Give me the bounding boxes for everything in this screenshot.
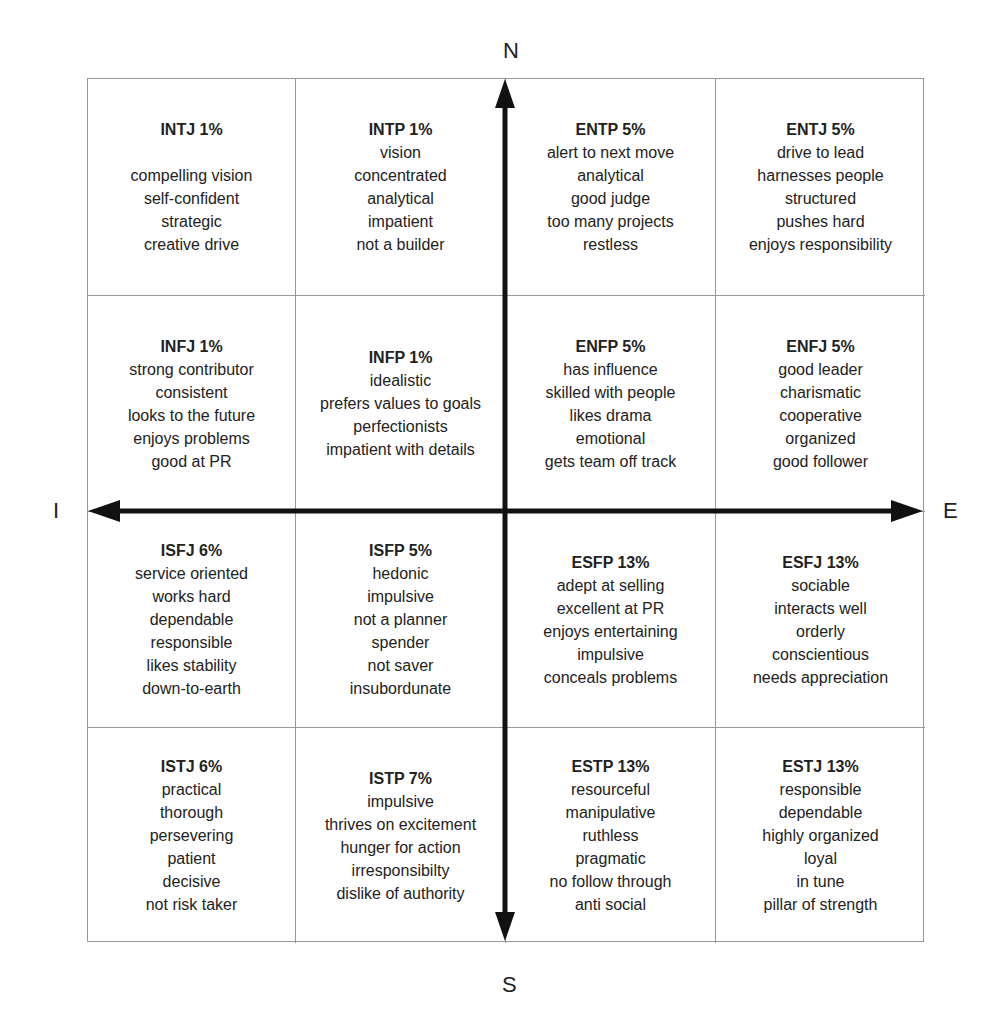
trait-item: harnesses people <box>757 164 883 187</box>
trait-item: impulsive <box>367 585 434 608</box>
trait-item: loyal <box>804 847 837 870</box>
trait-item: vision <box>380 141 421 164</box>
type-cell-isfp: ISFP 5%hedonicimpulsivenot a plannerspen… <box>296 512 506 728</box>
trait-item: conscientious <box>772 643 869 666</box>
axis-label-i: I <box>53 500 59 522</box>
type-title: ISTJ 6% <box>161 755 222 778</box>
trait-item: works hard <box>152 585 230 608</box>
trait-item: thorough <box>160 801 223 824</box>
type-cell-intp: INTP 1%visionconcentratedanalyticalimpat… <box>296 79 506 296</box>
trait-item: creative drive <box>144 233 239 256</box>
trait-item: strong contributor <box>129 358 254 381</box>
type-cell-infp: INFP 1%idealisticprefers values to goals… <box>296 296 506 512</box>
trait-item: dependable <box>779 801 863 824</box>
trait-item: emotional <box>576 427 645 450</box>
trait-item: hunger for action <box>340 836 460 859</box>
type-title: INTJ 1% <box>160 118 222 141</box>
trait-item: spender <box>372 631 430 654</box>
trait-item: down-to-earth <box>142 677 241 700</box>
trait-item: no follow through <box>550 870 672 893</box>
type-cell-entp: ENTP 5%alert to next moveanalyticalgood … <box>506 79 716 296</box>
type-title: ESFJ 13% <box>782 551 858 574</box>
trait-item: practical <box>162 778 222 801</box>
trait-item: good at PR <box>151 450 231 473</box>
trait-item: insubordunate <box>350 677 451 700</box>
trait-item: patient <box>167 847 215 870</box>
type-grid: INTJ 1%compelling visionself-confidentst… <box>87 78 924 942</box>
trait-item: irresponsibilty <box>352 859 450 882</box>
trait-item: resourceful <box>571 778 650 801</box>
trait-item: responsible <box>151 631 233 654</box>
trait-item: needs appreciation <box>753 666 888 689</box>
trait-item: analytical <box>577 164 644 187</box>
type-title: ESTP 13% <box>572 755 650 778</box>
type-cell-estp: ESTP 13%resourcefulmanipulativeruthlessp… <box>506 728 716 943</box>
type-title: ESTJ 13% <box>782 755 858 778</box>
trait-item: dependable <box>150 608 234 631</box>
trait-item: impulsive <box>367 790 434 813</box>
trait-item: thrives on excitement <box>325 813 476 836</box>
axis-label-n: N <box>503 40 519 62</box>
trait-item: prefers values to goals <box>320 392 481 415</box>
trait-item: orderly <box>796 620 845 643</box>
type-title: ENFJ 5% <box>786 335 854 358</box>
trait-item: enjoys entertaining <box>543 620 677 643</box>
trait-item: charismatic <box>780 381 861 404</box>
type-cell-entj: ENTJ 5%drive to leadharnesses peoplestru… <box>716 79 925 296</box>
trait-item: impulsive <box>577 643 644 666</box>
trait-item: interacts well <box>774 597 866 620</box>
trait-item: consistent <box>155 381 227 404</box>
type-title: INFP 1% <box>369 346 433 369</box>
trait-item: idealistic <box>370 369 431 392</box>
type-cell-enfp: ENFP 5%has influenceskilled with peoplel… <box>506 296 716 512</box>
trait-item: likes drama <box>570 404 652 427</box>
type-title: ENTP 5% <box>576 118 646 141</box>
trait-item: perfectionists <box>353 415 447 438</box>
trait-item: adept at selling <box>557 574 665 597</box>
trait-item: conceals problems <box>544 666 677 689</box>
trait-item: hedonic <box>372 562 428 585</box>
trait-item: good leader <box>778 358 863 381</box>
trait-item: persevering <box>150 824 234 847</box>
type-cell-enfj: ENFJ 5%good leadercharismaticcooperative… <box>716 296 925 512</box>
trait-item: sociable <box>791 574 850 597</box>
trait-item: has influence <box>563 358 657 381</box>
trait-item: organized <box>785 427 855 450</box>
trait-item: impatient <box>368 210 433 233</box>
trait-item: not a planner <box>354 608 447 631</box>
trait-item: decisive <box>163 870 221 893</box>
trait-item: responsible <box>780 778 862 801</box>
trait-item: alert to next move <box>547 141 674 164</box>
trait-item: drive to lead <box>777 141 864 164</box>
trait-item: pillar of strength <box>764 893 878 916</box>
type-cell-istp: ISTP 7%impulsivethrives on excitementhun… <box>296 728 506 943</box>
trait-item: looks to the future <box>128 404 255 427</box>
trait-item: ruthless <box>582 824 638 847</box>
trait-item: analytical <box>367 187 434 210</box>
trait-item: manipulative <box>566 801 656 824</box>
trait-item: good judge <box>571 187 650 210</box>
type-cell-estj: ESTJ 13%responsibledependablehighly orga… <box>716 728 925 943</box>
trait-item: skilled with people <box>546 381 676 404</box>
trait-item: highly organized <box>762 824 879 847</box>
trait-item: self-confident <box>144 187 239 210</box>
type-title: INFJ 1% <box>160 335 222 358</box>
trait-item: likes stability <box>147 654 237 677</box>
trait-item: structured <box>785 187 856 210</box>
trait-item: cooperative <box>779 404 862 427</box>
trait-item: pragmatic <box>575 847 645 870</box>
trait-item: in tune <box>796 870 844 893</box>
trait-item: restless <box>583 233 638 256</box>
trait-item: service oriented <box>135 562 248 585</box>
trait-item: not risk taker <box>146 893 238 916</box>
axis-label-s: S <box>502 974 517 996</box>
type-title: ENFP 5% <box>576 335 646 358</box>
type-cell-esfj: ESFJ 13%sociableinteracts wellorderlycon… <box>716 512 925 728</box>
trait-item: pushes hard <box>776 210 864 233</box>
trait-item: gets team off track <box>545 450 676 473</box>
trait-item: not a builder <box>356 233 444 256</box>
type-title: ISFP 5% <box>369 539 432 562</box>
type-cell-intj: INTJ 1%compelling visionself-confidentst… <box>88 79 296 296</box>
type-cell-istj: ISTJ 6%practicalthoroughperseveringpatie… <box>88 728 296 943</box>
trait-item: excellent at PR <box>557 597 665 620</box>
